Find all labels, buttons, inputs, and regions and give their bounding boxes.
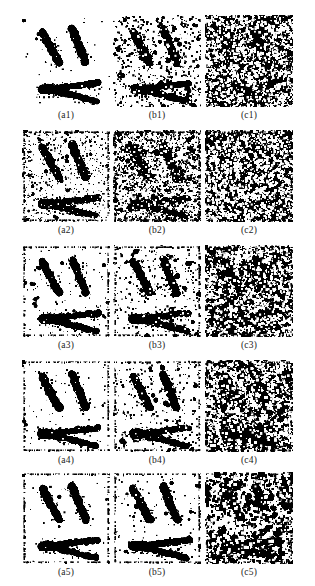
figure-panel-c1 (205, 15, 293, 107)
panel-image-a2 (22, 130, 110, 222)
panel-image-b3 (113, 245, 201, 337)
noisy-binary-image (113, 472, 201, 564)
noisy-binary-image (22, 245, 110, 337)
noisy-binary-image (22, 15, 110, 107)
figure-panel-c2 (205, 130, 293, 222)
noisy-binary-image (113, 15, 201, 107)
figure-panel-a5 (22, 472, 110, 564)
panel-image-a5 (22, 472, 110, 564)
noisy-binary-image (113, 245, 201, 337)
figure-panel-a1 (22, 15, 110, 107)
noisy-binary-image (22, 130, 110, 222)
panel-caption-a2: (a2) (22, 225, 110, 235)
figure-panel-a2 (22, 130, 110, 222)
noisy-binary-image (22, 360, 110, 452)
panel-caption-c4: (c4) (205, 455, 293, 465)
panel-caption-a3: (a3) (22, 340, 110, 350)
figure-panel-b2 (113, 130, 201, 222)
panel-image-c3 (205, 245, 293, 337)
noisy-binary-image (205, 245, 293, 337)
panel-image-a1 (22, 15, 110, 107)
figure-panel-b1 (113, 15, 201, 107)
panel-caption-c2: (c2) (205, 225, 293, 235)
figure-panel-c3 (205, 245, 293, 337)
noisy-binary-image (205, 360, 293, 452)
panel-image-b4 (113, 360, 201, 452)
panel-caption-c1: (c1) (205, 110, 293, 120)
panel-caption-a1: (a1) (22, 110, 110, 120)
panel-image-a4 (22, 360, 110, 452)
panel-caption-b2: (b2) (113, 225, 201, 235)
panel-image-c4 (205, 360, 293, 452)
panel-caption-a5: (a5) (22, 567, 110, 577)
panel-caption-b5: (b5) (113, 567, 201, 577)
noisy-binary-image (205, 472, 293, 564)
figure-panel-b4 (113, 360, 201, 452)
figure-panel-b5 (113, 472, 201, 564)
panel-image-c5 (205, 472, 293, 564)
figure-panel-c5 (205, 472, 293, 564)
figure-grid: (a1)(b1)(c1)(a2)(b2)(c2)(a3)(b3)(c3)(a4)… (0, 0, 315, 586)
panel-caption-b4: (b4) (113, 455, 201, 465)
panel-image-b5 (113, 472, 201, 564)
panel-image-b1 (113, 15, 201, 107)
panel-image-c1 (205, 15, 293, 107)
panel-image-b2 (113, 130, 201, 222)
panel-image-c2 (205, 130, 293, 222)
figure-panel-c4 (205, 360, 293, 452)
noisy-binary-image (22, 472, 110, 564)
panel-caption-b3: (b3) (113, 340, 201, 350)
panel-caption-a4: (a4) (22, 455, 110, 465)
noisy-binary-image (205, 15, 293, 107)
panel-image-a3 (22, 245, 110, 337)
noisy-binary-image (113, 360, 201, 452)
figure-panel-a3 (22, 245, 110, 337)
panel-caption-b1: (b1) (113, 110, 201, 120)
panel-caption-c3: (c3) (205, 340, 293, 350)
figure-panel-b3 (113, 245, 201, 337)
panel-caption-c5: (c5) (205, 567, 293, 577)
noisy-binary-image (113, 130, 201, 222)
figure-panel-a4 (22, 360, 110, 452)
noisy-binary-image (205, 130, 293, 222)
